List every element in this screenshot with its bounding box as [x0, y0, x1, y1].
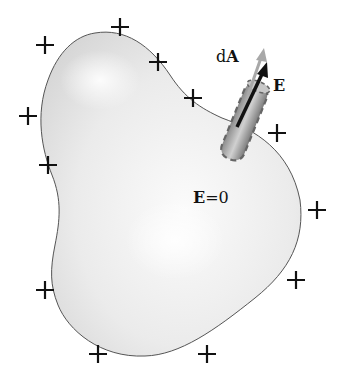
E-zero-label: E=0	[193, 188, 229, 207]
plus-charge-icon	[268, 124, 286, 142]
plus-charge-icon	[308, 201, 326, 219]
dA-label: dA	[216, 47, 239, 66]
E-label: E	[273, 76, 285, 95]
gauss-law-diagram: dA E E=0	[0, 0, 340, 378]
plus-charge-icon	[36, 36, 54, 54]
highlight	[60, 50, 140, 110]
plus-charge-icon	[198, 345, 216, 363]
highlight	[125, 200, 225, 280]
plus-charge-icon	[287, 271, 305, 289]
plus-charge-icon	[19, 107, 37, 125]
plus-charge-icon	[36, 281, 54, 299]
